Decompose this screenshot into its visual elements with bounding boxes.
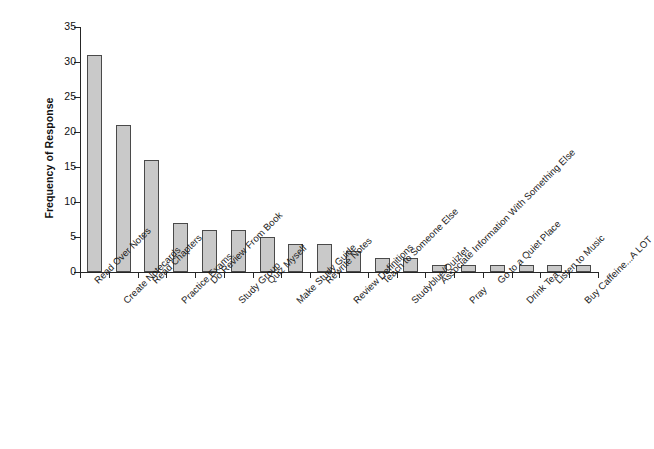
bars-layer (80, 27, 598, 272)
y-axis-title: Frequency of Response (43, 73, 55, 243)
x-tick-label: Pray (467, 284, 489, 306)
y-tick-label: 25 (64, 90, 76, 103)
y-tick-label: 0 (70, 265, 76, 278)
bar (87, 55, 102, 272)
y-tick-label: 10 (64, 195, 76, 208)
y-tick-label: 20 (64, 125, 76, 138)
y-tick-label: 35 (64, 20, 76, 33)
y-tick-label: 5 (70, 230, 76, 243)
y-tick-label: 30 (64, 55, 76, 68)
plot-area: 05101520253035 (80, 27, 598, 272)
y-tick-label: 15 (64, 160, 76, 173)
x-axis-labels: Read Over NotesCreate NotecardsRead Chap… (80, 272, 632, 449)
bar (144, 160, 159, 272)
